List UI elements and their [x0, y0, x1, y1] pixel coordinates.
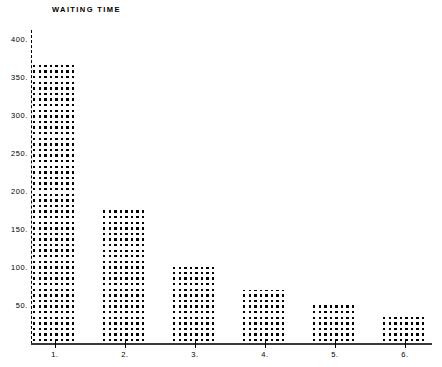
- bar-dot: [33, 233, 35, 235]
- bar-dot: [50, 255, 52, 257]
- bar-dot: [61, 317, 63, 319]
- bar-dot: [66, 333, 68, 335]
- bar-dot: [422, 322, 424, 324]
- bar-dot: [61, 82, 63, 84]
- bar-dot: [66, 255, 68, 257]
- bar-dot: [55, 244, 57, 246]
- bar-dot: [173, 283, 175, 285]
- bar-dot: [50, 70, 52, 72]
- bar-dot: [142, 216, 144, 218]
- bar-dot: [33, 317, 35, 319]
- bar-dot: [142, 222, 144, 224]
- bar-dot: [39, 261, 41, 263]
- bar-dot: [55, 261, 57, 263]
- bar-dot: [44, 305, 46, 307]
- bar-dot: [61, 160, 63, 162]
- bar-dot: [136, 238, 138, 240]
- bar-dot: [173, 322, 175, 324]
- bar-dot: [125, 339, 127, 341]
- bar-dot: [39, 294, 41, 296]
- bar-dot: [136, 322, 138, 324]
- bar-dot: [212, 267, 214, 269]
- bar-dot: [195, 305, 197, 307]
- bar-dot: [66, 277, 68, 279]
- bar-dot: [66, 154, 68, 156]
- bar-dot-row: [103, 337, 148, 343]
- bar-dot: [179, 333, 181, 335]
- bar-dot: [55, 205, 57, 207]
- bar-dot: [271, 339, 273, 341]
- bar-dot: [249, 294, 251, 296]
- bar-dot: [66, 70, 68, 72]
- bar-dot: [66, 104, 68, 106]
- bar-dot: [142, 238, 144, 240]
- bar-dot: [346, 339, 348, 341]
- bar-dot: [131, 233, 133, 235]
- bar-dot: [120, 227, 122, 229]
- bar-dot: [114, 266, 116, 268]
- bar-dot: [120, 289, 122, 291]
- bar-dot: [33, 272, 35, 274]
- bar-dot: [61, 177, 63, 179]
- bar-4: [243, 290, 288, 343]
- bar-dot: [352, 322, 354, 324]
- bar-dot: [131, 210, 133, 212]
- bar-dot: [125, 294, 127, 296]
- bar-dot: [179, 289, 181, 291]
- bar-dot: [39, 227, 41, 229]
- bar-dot: [50, 126, 52, 128]
- bar-dot: [39, 283, 41, 285]
- bar-dot: [394, 333, 396, 335]
- bar-dot: [136, 300, 138, 302]
- bar-dot: [33, 171, 35, 173]
- bar-dot: [61, 104, 63, 106]
- bar-dot: [55, 222, 57, 224]
- bar-dot: [44, 283, 46, 285]
- bar-dot: [136, 233, 138, 235]
- bar-dot: [276, 322, 278, 324]
- bar-dot: [201, 333, 203, 335]
- bar-dot: [39, 98, 41, 100]
- bar-dot: [136, 333, 138, 335]
- bar-dot: [55, 177, 57, 179]
- bar-dot: [66, 188, 68, 190]
- bar-dot: [125, 333, 127, 335]
- bar-dot: [352, 328, 354, 330]
- bar-dot: [44, 311, 46, 313]
- bar-dot: [61, 149, 63, 151]
- bar-dot: [103, 333, 105, 335]
- bar-dot: [44, 171, 46, 173]
- bar-dot: [61, 328, 63, 330]
- bar-dot: [44, 65, 46, 67]
- bar-dot: [120, 233, 122, 235]
- bar-dot: [55, 104, 57, 106]
- bar-dot: [103, 283, 105, 285]
- bar-dot: [400, 328, 402, 330]
- bar-dot: [254, 294, 256, 296]
- bar-dot: [72, 205, 74, 207]
- bar-dot-row: [173, 337, 218, 343]
- bar-dot: [136, 216, 138, 218]
- bar-dot: [66, 305, 68, 307]
- bar-dot: [120, 216, 122, 218]
- bar-dot: [66, 238, 68, 240]
- bar-dot: [66, 227, 68, 229]
- bar-dot: [142, 311, 144, 313]
- bar-dot: [103, 233, 105, 235]
- bar-dot: [44, 166, 46, 168]
- bar-dot: [195, 322, 197, 324]
- bar-dot: [72, 65, 74, 67]
- bar-dot: [201, 267, 203, 269]
- bar-dot: [335, 333, 337, 335]
- bar-dot: [131, 289, 133, 291]
- bar-dot: [383, 333, 385, 335]
- bar-dot: [33, 70, 35, 72]
- bar-dot: [50, 115, 52, 117]
- bar-dot: [324, 333, 326, 335]
- bar-dot: [173, 300, 175, 302]
- bar-dot: [383, 317, 385, 319]
- bar-dot-row: [313, 337, 358, 343]
- bar-dot: [201, 317, 203, 319]
- bar-dot: [55, 317, 57, 319]
- bar-dot: [142, 328, 144, 330]
